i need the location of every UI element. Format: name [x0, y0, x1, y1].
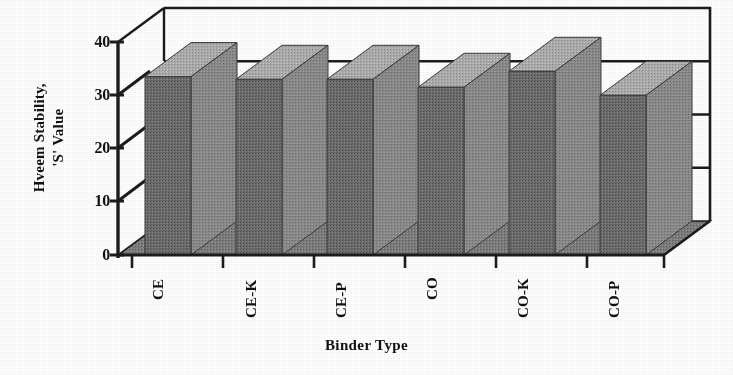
x-tick-label: CE-K	[243, 280, 260, 318]
bar-CO-K[interactable]	[509, 37, 601, 255]
bar-side	[646, 61, 692, 255]
bar-side	[464, 53, 510, 255]
x-tick-label: CE	[150, 279, 167, 300]
bar-CE-P[interactable]	[327, 45, 419, 255]
bar-front	[236, 79, 282, 255]
x-tick-marks	[132, 255, 664, 268]
bar-side	[373, 45, 419, 255]
x-tick-label: CO-K	[515, 278, 532, 318]
plot-area	[0, 0, 733, 375]
bar-side	[282, 45, 328, 255]
bar-CE[interactable]	[145, 43, 237, 255]
bar-side	[555, 37, 601, 255]
bar-side	[191, 43, 237, 255]
x-tick-label: CE-P	[333, 282, 350, 318]
bar-front	[509, 71, 555, 255]
x-tick-label: CO-P	[606, 281, 623, 318]
bar-front	[418, 87, 464, 255]
bar-front	[145, 77, 191, 255]
bar-CO[interactable]	[418, 53, 510, 255]
bar-front	[600, 95, 646, 255]
x-tick-label: CO	[424, 277, 441, 300]
bar-CE-K[interactable]	[236, 45, 328, 255]
axis-depth-connector	[118, 8, 164, 61]
chart-figure: Hveem Stability, 'S' Value 40 30 20 10 0	[0, 0, 733, 375]
bar-front	[327, 79, 373, 255]
x-axis-title: Binder Type	[0, 337, 733, 354]
bar-CO-P[interactable]	[600, 61, 692, 255]
